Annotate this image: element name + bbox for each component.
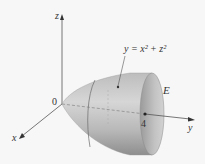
- origin-label: 0: [52, 97, 57, 107]
- z-axis-label: z: [55, 11, 59, 21]
- z-axis-arrow-icon: [60, 14, 64, 20]
- paraboloid-figure: z 0 x y 4 E y = x² + z²: [0, 0, 205, 164]
- z-axis: [60, 14, 64, 104]
- y-axis-arrow-icon: [188, 117, 195, 122]
- paraboloid-solid: [62, 73, 164, 155]
- y-axis-label: y: [188, 123, 192, 133]
- point-4-label: 4: [141, 119, 146, 129]
- x-axis-label: x: [12, 133, 16, 143]
- surface-equation-label: y = x² + z²: [124, 44, 166, 54]
- point-y-4: [143, 112, 146, 115]
- x-axis: [19, 104, 62, 139]
- equation-leader-dot: [117, 86, 119, 88]
- region-e-label: E: [163, 85, 170, 96]
- figure-canvas: [0, 0, 205, 164]
